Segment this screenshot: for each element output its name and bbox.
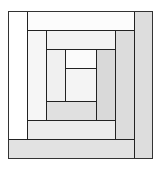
quilt-piece-inner-bottom bbox=[46, 101, 97, 121]
quilt-piece-inner-right bbox=[96, 49, 116, 121]
quilt-piece-outer-right bbox=[134, 11, 153, 159]
quilt-piece-outer-left bbox=[8, 11, 28, 140]
quilt-piece-center bbox=[65, 68, 97, 102]
quilt-piece-middle-right bbox=[115, 30, 135, 140]
quilt-piece-middle-bottom bbox=[27, 120, 116, 140]
quilt-piece-middle-left bbox=[27, 30, 47, 121]
quilt-piece-inner-top bbox=[65, 49, 97, 69]
quilt-piece-outer-bottom bbox=[8, 139, 135, 159]
quilt-piece-outer-top bbox=[27, 11, 135, 31]
quilt-piece-middle-top bbox=[46, 30, 116, 50]
quilt-piece-inner-left bbox=[46, 49, 66, 102]
